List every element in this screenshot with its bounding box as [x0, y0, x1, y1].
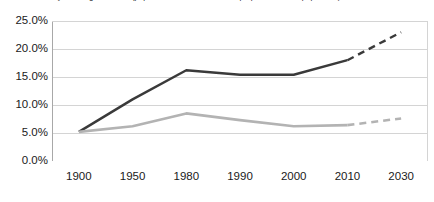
x-axis-tick-label: 1990: [209, 170, 271, 183]
x-axis-labels: 1900195019801990200020102030: [52, 170, 428, 190]
line-chart: Dynamic age structure (population with c…: [0, 0, 434, 202]
y-axis-tick-label: 10.0%: [4, 99, 48, 111]
series-line-projection-dashed: [347, 32, 401, 60]
y-axis-tick-label: 25.0%: [4, 15, 48, 27]
y-axis-tick-label: 5.0%: [4, 127, 48, 139]
y-axis-labels: 0.0%5.0%10.0%15.0%20.0%25.0%: [0, 0, 48, 202]
x-axis-tick-label: 2010: [316, 170, 378, 183]
plot-svg: [52, 21, 428, 161]
series-line-solid: [79, 60, 348, 132]
y-axis-tick-label: 20.0%: [4, 43, 48, 55]
y-axis-tick-label: 0.0%: [4, 155, 48, 167]
chart-title: Dynamic age structure (population with c…: [52, 0, 428, 2]
series-line-projection-dashed: [347, 118, 401, 125]
series-line-solid: [79, 113, 348, 131]
x-axis-tick-label: 1950: [102, 170, 164, 183]
x-axis-tick-label: 1980: [155, 170, 217, 183]
x-axis-tick-label: 2000: [263, 170, 325, 183]
x-axis-tick-label: 1900: [48, 170, 110, 183]
plot-area: [52, 21, 428, 161]
y-axis-tick-label: 15.0%: [4, 71, 48, 83]
x-axis-tick-label: 2030: [370, 170, 432, 183]
